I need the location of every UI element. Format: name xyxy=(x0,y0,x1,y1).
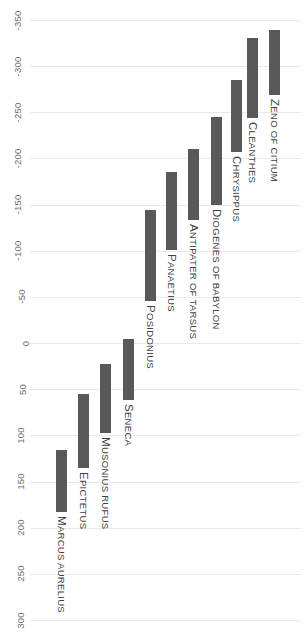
y-tick-label: -50 xyxy=(15,290,26,304)
bar-musonius-rufus[interactable] xyxy=(100,364,111,432)
bar-label-musonius-rufus: MUSONIUS RUFUS xyxy=(100,437,112,529)
bar-label-antipater-of-tarsus: ANTIPATER OF TARSUS xyxy=(188,224,200,339)
bar-diogenes-of-babylon[interactable] xyxy=(211,117,222,205)
gridline-0 xyxy=(30,343,301,344)
bar-chrysippus[interactable] xyxy=(231,80,242,152)
bar-label-zeno-of-citium: ZENO OF CITIUM xyxy=(269,99,281,182)
gridline-50 xyxy=(30,389,301,390)
stoic-philosophers-timeline-chart: -350-300-250-200-150-100-500501001502002… xyxy=(0,0,305,636)
bar-cleanthes[interactable] xyxy=(247,38,258,118)
bar-label-posidonius: POSIDONIUS xyxy=(145,305,157,369)
bar-label-seneca: SENECA xyxy=(123,404,135,446)
gridline-200 xyxy=(30,528,301,529)
bar-label-epictetus: EPICTETUS xyxy=(78,472,90,529)
gridline-100 xyxy=(30,435,301,436)
label-initial: M xyxy=(56,516,68,526)
gridline--350 xyxy=(30,20,301,21)
y-tick-label: 100 xyxy=(14,427,25,443)
y-tick-label: 300 xyxy=(14,612,25,628)
bar-panaetius[interactable] xyxy=(166,172,177,250)
label-initial: C xyxy=(231,156,243,165)
label-initial: D xyxy=(211,209,223,218)
bar-label-chrysippus: CHRYSIPPUS xyxy=(231,156,243,222)
label-initial: S xyxy=(123,404,135,412)
gridline--300 xyxy=(30,66,301,67)
label-initial: A xyxy=(188,224,200,232)
bar-marcus-aurelius[interactable] xyxy=(56,450,67,512)
y-tick-label: -100 xyxy=(13,241,24,261)
label-initial: Z xyxy=(269,99,281,106)
bar-label-cleanthes: CLEANTHES xyxy=(247,122,259,183)
y-tick-label: 50 xyxy=(17,384,28,395)
bar-epictetus[interactable] xyxy=(78,394,89,468)
gridline-300 xyxy=(30,620,301,621)
gridline--200 xyxy=(30,158,301,159)
label-initial: M xyxy=(100,437,112,447)
y-tick-label: -350 xyxy=(13,10,24,30)
gridline--250 xyxy=(30,112,301,113)
gridline-250 xyxy=(30,574,301,575)
bar-posidonius[interactable] xyxy=(145,210,156,300)
y-tick-label: -250 xyxy=(13,102,24,122)
gridline--100 xyxy=(30,251,301,252)
y-tick-label: -200 xyxy=(13,149,24,169)
y-tick-label: -300 xyxy=(13,56,24,76)
label-initial: P xyxy=(166,254,178,262)
bar-seneca[interactable] xyxy=(123,339,134,400)
bar-label-diogenes-of-babylon: DIOGENES OF BABYLON xyxy=(211,209,223,330)
gridline-150 xyxy=(30,482,301,483)
label-initial: C xyxy=(247,122,259,131)
y-tick-label: 200 xyxy=(14,519,25,535)
bar-zeno-of-citium[interactable] xyxy=(269,30,280,95)
label-initial: E xyxy=(78,472,90,480)
bar-antipater-of-tarsus[interactable] xyxy=(188,149,199,220)
label-initial: P xyxy=(145,305,157,313)
y-tick-label: 150 xyxy=(14,473,25,489)
y-tick-label: 0 xyxy=(20,340,31,345)
bar-label-marcus-aurelius: MARCUS AURELIUS xyxy=(56,516,68,613)
y-tick-label: -150 xyxy=(13,195,24,215)
bar-label-panaetius: PANAETIUS xyxy=(166,254,178,312)
y-tick-label: 250 xyxy=(14,566,25,582)
